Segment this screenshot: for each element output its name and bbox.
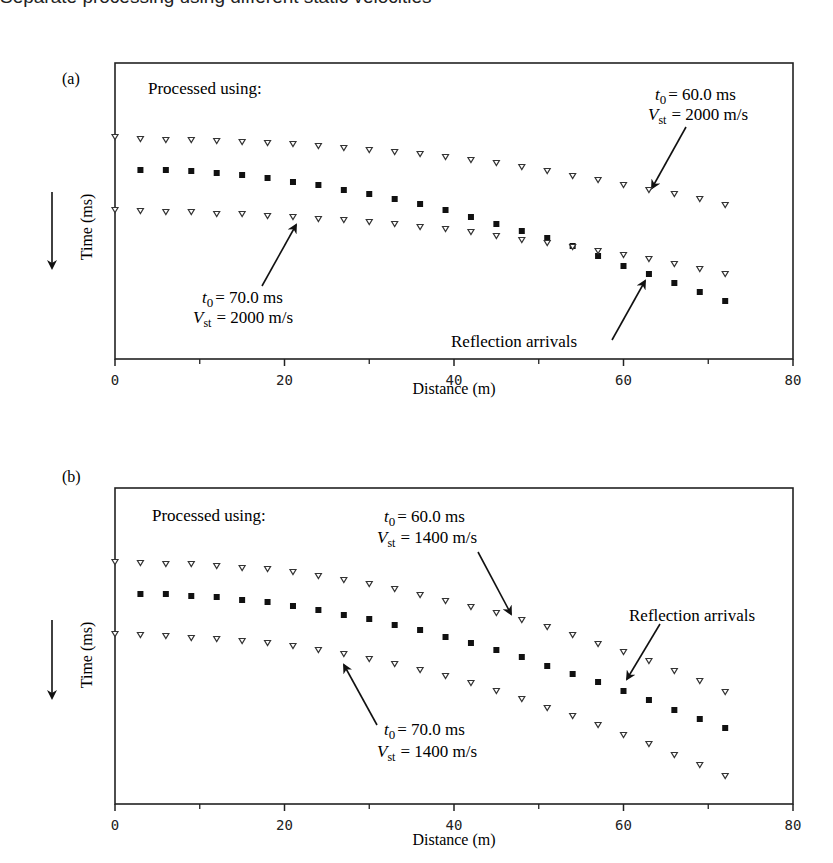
data-point-triangle <box>417 668 423 673</box>
data-point-square <box>443 207 449 213</box>
panel-a-label: (a) <box>62 70 80 88</box>
data-point-triangle <box>315 217 321 222</box>
data-point-square <box>417 201 423 207</box>
data-point-triangle <box>697 763 703 768</box>
svg-text:Reflection arrivals: Reflection arrivals <box>451 332 577 351</box>
data-point-triangle <box>417 152 423 157</box>
panel-a-xlabel: Distance (m) <box>412 380 495 398</box>
data-point-triangle <box>544 706 550 711</box>
data-point-triangle <box>392 222 398 227</box>
data-point-triangle <box>443 227 449 232</box>
data-point-triangle <box>290 215 296 220</box>
data-point-triangle <box>366 148 372 153</box>
data-point-square <box>315 182 321 188</box>
data-point-triangle <box>493 234 499 239</box>
panel-a-ylabel: Time (ms) <box>78 194 96 261</box>
data-point-triangle <box>468 158 474 163</box>
panel-b-label: (b) <box>62 468 81 486</box>
data-point-triangle <box>290 142 296 147</box>
data-point-triangle <box>646 742 652 747</box>
panel-b-annotation-t70: t0= 70.0 ms Vst= 1400 m/s <box>344 665 477 764</box>
data-point-triangle <box>722 272 728 277</box>
svg-text:Vst= 1400 m/s: Vst= 1400 m/s <box>377 528 477 550</box>
data-point-square <box>519 654 525 660</box>
data-point-triangle <box>112 632 118 637</box>
data-point-square <box>646 271 652 277</box>
x-tick-label: 20 <box>276 372 293 388</box>
data-point-triangle <box>443 599 449 604</box>
svg-text:Vst= 2000 m/s: Vst= 2000 m/s <box>193 308 293 330</box>
data-point-triangle <box>646 188 652 193</box>
data-point-triangle <box>163 138 169 143</box>
svg-text:t0= 60.0 ms: t0= 60.0 ms <box>655 85 736 107</box>
arrow-icon <box>652 127 686 188</box>
panel-a-data-points <box>112 135 728 305</box>
data-point-square <box>392 196 398 202</box>
data-point-triangle <box>621 253 627 258</box>
data-point-triangle <box>137 209 143 214</box>
data-point-triangle <box>265 641 271 646</box>
data-point-square <box>671 707 677 713</box>
data-point-square <box>137 167 143 173</box>
data-point-triangle <box>570 633 576 638</box>
data-point-triangle <box>595 249 601 254</box>
data-point-triangle <box>188 138 194 143</box>
data-point-square <box>468 640 474 646</box>
data-point-square <box>341 612 347 618</box>
data-point-triangle <box>671 262 677 267</box>
data-point-triangle <box>468 605 474 610</box>
data-point-triangle <box>315 144 321 149</box>
x-tick-label: 20 <box>276 817 293 833</box>
svg-text:t0= 60.0 ms: t0= 60.0 ms <box>384 507 465 529</box>
data-point-square <box>137 591 143 597</box>
svg-text:Vst= 1400 m/s: Vst= 1400 m/s <box>377 742 477 764</box>
svg-text:t0= 70.0 ms: t0= 70.0 ms <box>202 288 283 310</box>
panel-b: (b) Processed using: Time (ms) 020406080… <box>52 468 801 849</box>
panel-b-xticks: 020406080 <box>111 804 802 833</box>
data-point-square <box>315 607 321 613</box>
data-point-square <box>265 599 271 605</box>
data-point-square <box>544 663 550 669</box>
data-point-square <box>214 594 220 600</box>
data-point-triangle <box>722 774 728 779</box>
data-point-triangle <box>290 644 296 649</box>
data-point-triangle <box>443 674 449 679</box>
data-point-triangle <box>239 140 245 145</box>
data-point-square <box>214 170 220 176</box>
data-point-triangle <box>671 753 677 758</box>
arrow-icon <box>262 225 296 286</box>
x-tick-label: 0 <box>111 372 119 388</box>
data-point-triangle <box>392 150 398 155</box>
data-point-triangle <box>519 165 525 170</box>
data-point-triangle <box>544 625 550 630</box>
data-point-triangle <box>544 241 550 246</box>
data-point-square <box>163 167 169 173</box>
data-point-triangle <box>265 567 271 572</box>
data-point-triangle <box>137 561 143 566</box>
data-point-triangle <box>722 203 728 208</box>
data-point-triangle <box>188 636 194 641</box>
data-point-triangle <box>341 652 347 657</box>
data-point-triangle <box>341 218 347 223</box>
data-point-square <box>468 214 474 220</box>
panel-a-annotation-t60: t0= 60.0 ms Vst= 2000 m/s <box>648 85 748 188</box>
data-point-square <box>570 671 576 677</box>
data-point-triangle <box>214 564 220 569</box>
data-point-triangle <box>646 659 652 664</box>
svg-text:t0= 70.0 ms: t0= 70.0 ms <box>384 720 465 742</box>
data-point-square <box>366 191 372 197</box>
x-tick-label: 60 <box>615 817 632 833</box>
data-point-triangle <box>417 593 423 598</box>
data-point-triangle <box>188 210 194 215</box>
data-point-square <box>239 172 245 178</box>
arrow-icon <box>627 624 660 679</box>
svg-text:Reflection arrivals: Reflection arrivals <box>629 606 755 625</box>
data-point-square <box>443 634 449 640</box>
data-point-square <box>290 179 296 185</box>
data-point-triangle <box>366 657 372 662</box>
data-point-triangle <box>137 137 143 142</box>
data-point-square <box>621 263 627 269</box>
data-point-triangle <box>112 560 118 565</box>
data-point-triangle <box>163 562 169 567</box>
data-point-square <box>621 688 627 694</box>
